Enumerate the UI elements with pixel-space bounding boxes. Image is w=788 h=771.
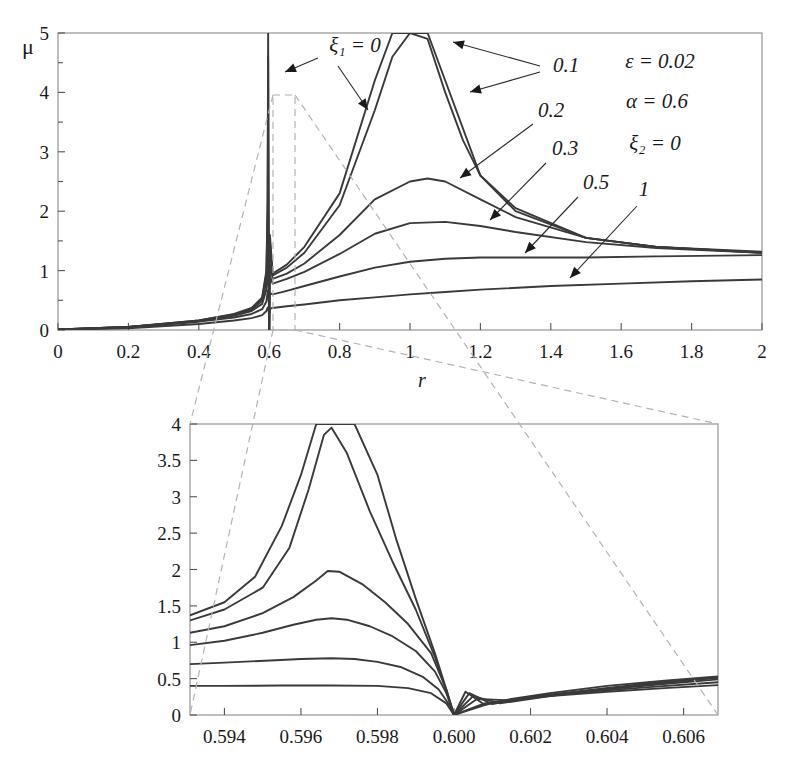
inset-y-tick-label: 3	[172, 487, 182, 508]
inset-y-tick-label: 4	[172, 414, 182, 435]
label-03: 0.3	[552, 136, 578, 160]
main-plot: 012345μ00.20.40.60.811.21.41.61.82r	[22, 23, 767, 391]
zoom-connector-lower-right	[295, 330, 718, 424]
main-y-axis-label: μ	[22, 34, 34, 59]
inset-y-tick-label: 0.5	[157, 669, 181, 690]
main-x-axis-label: r	[418, 369, 426, 391]
main-y-tick-label: 1	[40, 261, 50, 282]
inset-x-tick-label: 0.594	[203, 726, 246, 747]
label-05: 0.5	[583, 170, 609, 194]
inset-y-tick-label: 0	[172, 705, 182, 726]
inset-y-tick-label: 1	[172, 632, 182, 653]
inset-x-tick-label: 0.602	[509, 726, 552, 747]
inset-plot-frame	[190, 424, 718, 715]
label-02: 0.2	[538, 98, 565, 122]
main-x-tick-label: 1.4	[539, 341, 563, 362]
param-xi2: ξ₂ = 0	[629, 131, 681, 155]
main-y-tick-label: 0	[40, 320, 50, 341]
main-y-tick-label: 4	[40, 82, 50, 103]
inset-x-tick-label: 0.598	[356, 726, 399, 747]
main-y-tick-label: 5	[40, 23, 50, 44]
main-y-tick-label: 3	[40, 142, 50, 163]
figure-root: 012345μ00.20.40.60.811.21.41.61.82r00.51…	[0, 0, 788, 771]
inset-x-tick-label: 0.604	[586, 726, 629, 747]
inset-y-tick-label: 2.5	[157, 523, 181, 544]
inset-x-tick-label: 0.600	[433, 726, 476, 747]
label-01: 0.1	[553, 53, 579, 77]
vibration-response-figure: 012345μ00.20.40.60.811.21.41.61.82r00.51…	[0, 0, 788, 771]
main-x-tick-label: 1	[405, 341, 415, 362]
main-x-tick-label: 0.2	[117, 341, 141, 362]
main-x-tick-label: 2	[757, 341, 767, 362]
inset-x-tick-label: 0.596	[280, 726, 323, 747]
inset-plot: 00.511.522.533.540.5940.5960.5980.6000.6…	[157, 414, 718, 747]
main-x-tick-label: 0	[53, 341, 63, 362]
main-y-tick-label: 2	[40, 201, 50, 222]
main-x-tick-label: 0.6	[257, 341, 281, 362]
main-x-tick-label: 1.2	[469, 341, 493, 362]
inset-y-tick-label: 2	[172, 560, 182, 581]
inset-x-tick-label: 0.606	[662, 726, 705, 747]
main-x-tick-label: 0.4	[187, 341, 211, 362]
main-x-tick-label: 1.6	[609, 341, 633, 362]
main-x-tick-label: 0.8	[328, 341, 352, 362]
label-xi1-0: ξ₁ = 0	[329, 33, 381, 57]
inset-y-tick-label: 3.5	[157, 450, 181, 471]
param-alpha: α = 0.6	[626, 89, 688, 113]
label-1: 1	[639, 177, 650, 201]
main-x-tick-label: 1.8	[680, 341, 704, 362]
inset-y-tick-label: 1.5	[157, 596, 181, 617]
param-epsilon: ε = 0.02	[625, 49, 695, 73]
